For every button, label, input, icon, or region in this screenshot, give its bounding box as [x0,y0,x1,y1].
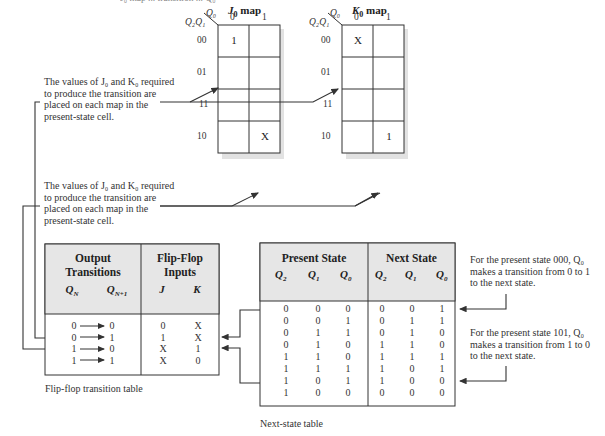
k-map-row-01: 01 [321,67,331,77]
state-note-1: For the present state 000, Q₀ makes a tr… [470,254,590,289]
k-map-cell-00-0: X [343,34,373,46]
k-map-col-1: 1 [386,12,391,22]
ns-col-q2: Q2 [275,268,286,283]
table-row: 1 1 X 0 [45,355,219,367]
k-map-row-00: 00 [321,35,331,45]
table-row: 0 0 0 0 0 1 [260,303,455,315]
k-map-row-10: 10 [321,131,331,141]
ns-header-next: Next State [368,252,455,264]
table-row: 0 1 1 0 1 0 [260,327,455,339]
ns-col-next-q0: Q0 [436,268,447,283]
table-row: 1 0 X 1 [45,343,219,355]
j-map-row-11: 11 [199,99,208,109]
ns-caption: Next-state table [260,418,323,429]
table-row: 0 1 1 X [45,332,219,344]
tt-header-inputs: Inputs [141,266,219,278]
table-row: 1 1 0 1 1 1 [260,351,455,363]
j-map-row-var: Q₂Q₁ [185,17,205,27]
ns-header-present: Present State [260,252,368,264]
tt-col-qn: QN [60,283,84,298]
j-map-col-var: Q₀ [206,8,216,18]
k-map-row-11: 11 [323,99,332,109]
ns-rows: 0 0 0 0 0 1 0 0 1 0 1 1 0 1 1 0 1 0 0 1 … [260,303,455,399]
k-map-cell-10-1: 1 [374,130,404,142]
table-row: 1 0 1 1 0 0 [260,375,455,387]
j-map-col-1: 1 [262,12,267,22]
j-map-col-0: 0 [230,12,235,22]
ns-col-next-q1: Q1 [405,268,416,283]
ns-col-next-q2: Q2 [375,268,386,283]
tt-caption: Flip-flop transition table [45,383,143,394]
map-note-1: The values of J₀ and K₀ required to prod… [44,76,174,122]
j-map-row-10: 10 [197,131,207,141]
k-map-col-var: Q₀ [330,8,340,18]
tt-header-transitions: Transitions [45,266,141,278]
table-row: 0 1 0 1 1 0 [260,339,455,351]
table-row: 0 0 0 X [45,320,219,332]
table-row: 0 0 1 0 1 1 [260,315,455,327]
top-caption-cut: J₀ map ... transition ... Q₀ [120,0,216,3]
state-note-2: For the present state 101, Q₀ makes a tr… [470,327,590,362]
map-note-2: The values of J₀ and K₀ required to prod… [44,180,174,226]
tt-col-qn1: QN+1 [100,283,134,298]
k-map-col-0: 0 [354,12,359,22]
ns-col-q0: Q0 [340,268,351,283]
tt-rows: 0 0 0 X 0 1 1 X 1 0 X 1 1 1 X 0 [45,320,219,366]
tt-col-k: K [190,283,204,295]
j-map-row-00: 00 [197,35,207,45]
tt-header-output: Output [45,252,141,264]
j-map-cell-10-1: X [250,130,280,142]
j-map-cell-00-0: 1 [219,34,249,46]
table-row: 1 1 1 1 0 1 [260,363,455,375]
j-map-row-01: 01 [197,67,207,77]
tt-header-flipflop: Flip-Flop [141,252,219,264]
tt-col-j: J [155,283,169,295]
ns-col-q1: Q1 [308,268,319,283]
table-row: 1 0 0 0 0 0 [260,387,455,399]
k-map-row-var: Q₂Q₁ [309,17,329,27]
